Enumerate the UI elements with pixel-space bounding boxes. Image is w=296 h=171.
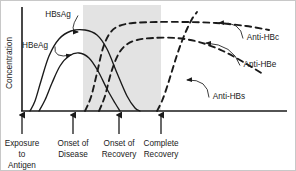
shaded-band bbox=[83, 5, 161, 111]
series-label-anti-hbe: Anti-HBe bbox=[244, 60, 277, 69]
y-axis-title: Concentration bbox=[4, 37, 14, 89]
curve-anti-hbs bbox=[157, 12, 197, 111]
series-label-hbeag: HBeAg bbox=[22, 41, 48, 50]
series-label-hbsag: HBsAg bbox=[45, 10, 71, 19]
y-axis-title-text: Concentration bbox=[4, 37, 14, 89]
event-label-complete-recovery-line1: Complete bbox=[143, 139, 178, 148]
leader-line-hbeag bbox=[55, 47, 71, 56]
event-label-onset-recovery-line1: Onset of bbox=[104, 139, 136, 148]
event-label-onset-disease-line2: Disease bbox=[58, 150, 88, 159]
event-label-onset-recovery-line2: Recovery bbox=[102, 150, 137, 159]
timeline-event-markers: ExposuretoAntigenOnset ofDiseaseOnset of… bbox=[5, 115, 179, 170]
leader-line-anti-hbs bbox=[187, 80, 209, 98]
event-label-exposure-line2: to bbox=[19, 150, 26, 159]
hepatitis-b-serology-chart: HBsAgHBeAgAnti-HBcAnti-HBeAnti-HBs Expos… bbox=[1, 1, 296, 171]
event-label-exposure-line1: Exposure bbox=[5, 139, 40, 148]
event-label-exposure-line3: Antigen bbox=[8, 161, 36, 170]
chart-figure: HBsAgHBeAgAnti-HBcAnti-HBeAnti-HBs Expos… bbox=[0, 0, 296, 171]
event-label-onset-disease-line1: Onset of bbox=[58, 139, 90, 148]
event-label-complete-recovery-line2: Recovery bbox=[144, 150, 179, 159]
acute-disease-shaded-region bbox=[83, 5, 161, 111]
series-label-anti-hbs: Anti-HBs bbox=[213, 92, 245, 101]
series-label-anti-hbc: Anti-HBc bbox=[247, 33, 279, 42]
